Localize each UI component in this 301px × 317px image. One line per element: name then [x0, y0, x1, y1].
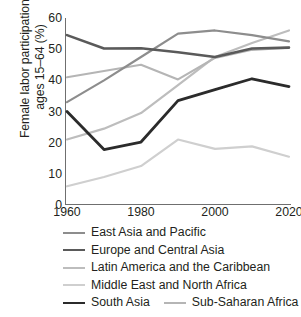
legend-swatch-east-asia-and-pacific [63, 232, 85, 234]
legend-label-europe-and-central-asia: Europe and Central Asia [91, 244, 224, 257]
legend-label-south-asia: South Asia [91, 296, 150, 309]
y-tick-label: 30 [36, 106, 62, 118]
legend-label-latin-america-and-the-caribbean: Latin America and the Caribbean [91, 261, 270, 274]
legend-row: Latin America and the Caribbean [63, 259, 301, 277]
legend-item-middle-east-and-north-africa[interactable]: Middle East and North Africa [63, 279, 247, 292]
y-tick-label: 50 [36, 43, 62, 55]
x-tick-label: 2020 [267, 205, 301, 219]
y-axis-tick-labels: 0102030405060 [30, 0, 62, 205]
y-tick-label: 40 [36, 74, 62, 86]
legend-item-sub-saharan-africa[interactable]: Sub-Saharan Africa [164, 296, 299, 309]
series-line-europe-and-central-asia [67, 35, 289, 57]
legend-item-latin-america-and-the-caribbean[interactable]: Latin America and the Caribbean [63, 261, 270, 274]
legend-label-sub-saharan-africa: Sub-Saharan Africa [192, 296, 299, 309]
legend-item-east-asia-and-pacific[interactable]: East Asia and Pacific [63, 226, 206, 239]
legend-swatch-middle-east-and-north-africa [63, 284, 85, 286]
legend-row: South AsiaSub-Saharan Africa [63, 294, 301, 312]
y-tick-label: 20 [36, 137, 62, 149]
plot-area [65, 18, 291, 205]
legend-swatch-sub-saharan-africa [164, 302, 186, 304]
legend-row: Middle East and North Africa [63, 277, 301, 295]
x-tick-label: 1960 [45, 205, 89, 219]
x-axis-tick-labels: 1960198020002020 [65, 203, 297, 221]
legend-swatch-latin-america-and-the-caribbean [63, 267, 85, 269]
y-tick-label: 10 [36, 168, 62, 180]
legend-swatch-south-asia [63, 302, 85, 304]
y-tick-label: 60 [36, 12, 62, 24]
x-tick-label: 1980 [119, 205, 163, 219]
chart-legend: East Asia and PacificEurope and Central … [63, 224, 301, 312]
legend-swatch-europe-and-central-asia [63, 249, 85, 251]
legend-row: East Asia and Pacific [63, 224, 301, 242]
chart-figure: Female labor participation, ages 15–64 (… [0, 0, 301, 317]
x-tick-label: 2000 [193, 205, 237, 219]
legend-row: Europe and Central Asia [63, 242, 301, 260]
legend-item-south-asia[interactable]: South Asia [63, 296, 150, 309]
legend-label-middle-east-and-north-africa: Middle East and North Africa [91, 279, 247, 292]
legend-label-east-asia-and-pacific: East Asia and Pacific [91, 226, 206, 239]
legend-item-europe-and-central-asia[interactable]: Europe and Central Asia [63, 244, 224, 257]
line-chart-svg [65, 18, 291, 205]
